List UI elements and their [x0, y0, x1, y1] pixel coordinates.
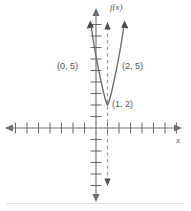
axis-of-symmetry-arrow-up — [104, 22, 110, 30]
axis-of-symmetry-arrow-down — [104, 179, 110, 187]
x-axis-arrow-right — [174, 124, 182, 131]
annotation-point-0-5: (0, 5) — [57, 62, 78, 71]
x-axis-group — [5, 123, 182, 134]
x-axis-arrow-left — [5, 124, 13, 131]
y-axis-arrow-down — [92, 194, 99, 202]
graph-figure: (0, 5) (2, 5) (1, 2) x f(x) — [0, 0, 191, 211]
bottom-divider — [6, 203, 185, 204]
annotation-vertex-1-2: (1, 2) — [112, 100, 133, 109]
x-axis-label: x — [176, 136, 180, 145]
annotation-point-2-5: (2, 5) — [122, 62, 143, 71]
coordinate-plane-svg — [0, 0, 191, 211]
function-label: f(x) — [110, 3, 123, 12]
parabola-arrow-right-branch — [121, 21, 128, 29]
y-axis-arrow-up — [92, 8, 99, 16]
